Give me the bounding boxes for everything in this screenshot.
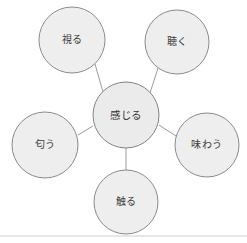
connector-center-to-smell bbox=[78, 126, 93, 135]
node-circle-see[interactable] bbox=[39, 7, 105, 73]
node-shape-group bbox=[12, 7, 239, 234]
node-circle-taste[interactable] bbox=[175, 113, 239, 177]
concept-diagram: 視る 聴く 匂う 味わう 触る 感じる bbox=[0, 0, 247, 243]
node-circle-hear[interactable] bbox=[145, 10, 209, 74]
node-circle-smell[interactable] bbox=[12, 112, 78, 178]
node-circle-touch[interactable] bbox=[94, 170, 158, 234]
node-circle-center[interactable] bbox=[93, 82, 159, 148]
connector-center-to-taste bbox=[159, 125, 176, 136]
diagram-canvas bbox=[0, 0, 247, 243]
connector-center-to-hear bbox=[150, 68, 158, 93]
connector-center-to-see bbox=[95, 64, 103, 92]
